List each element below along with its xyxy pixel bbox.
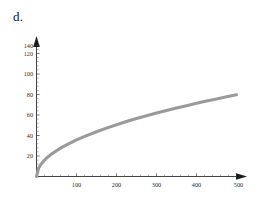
data-curve (37, 95, 237, 177)
x-axis-arrow-icon (236, 173, 247, 180)
y-tick-label: 40 (27, 132, 33, 139)
x-tick-label: 500 (234, 181, 243, 188)
y-tick-label: 20 (27, 152, 33, 159)
plot-area: 20 40 60 80 100 120 140 (0, 0, 259, 208)
y-tick-label: 140 (24, 42, 33, 49)
y-tick-label: 80 (27, 91, 33, 98)
y-tick-label: 100 (24, 70, 33, 77)
x-tick-label: 400 (192, 181, 201, 188)
x-tick-label: 300 (152, 181, 161, 188)
y-tick-label: 60 (27, 111, 33, 118)
y-tick-label: 120 (24, 50, 33, 57)
x-tick-label: 100 (72, 181, 81, 188)
figure-panel: d. (0, 0, 259, 208)
x-tick-label: 200 (112, 181, 121, 188)
